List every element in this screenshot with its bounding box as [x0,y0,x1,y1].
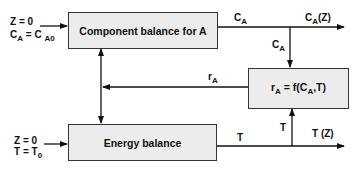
component-input-line2: CA = C A0 [10,29,55,44]
ra-signal-label: rA [208,71,218,86]
energy-balance-label: Energy balance [104,137,182,149]
reaction-rate-label: rA = f(CA,T) [271,81,326,96]
energy-balance-block: Energy balance [68,124,217,161]
energy-input-line2: T = T0 [14,146,42,161]
ca-output-label: CA(Z) [305,12,331,27]
t-up-label: T [280,122,286,133]
t-signal-label: T [237,132,243,143]
t-output-label: T (Z) [312,128,334,139]
component-balance-block: Component balance for A [68,12,218,49]
reaction-rate-block: rA = f(CA,T) [248,68,349,109]
component-balance-label: Component balance for A [79,25,206,37]
energy-input-line1: Z = 0 [14,135,37,146]
ca-down-label: CA [272,39,285,54]
component-input-line1: Z = 0 [10,16,33,27]
ca-signal-label: CA [234,12,247,27]
